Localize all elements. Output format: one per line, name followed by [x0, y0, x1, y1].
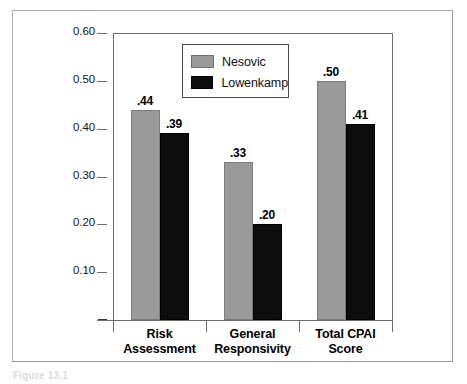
bar-nesovic[interactable] [131, 110, 160, 320]
bar-item[interactable]: .44 [131, 33, 160, 320]
category-label: RiskAssessment [113, 327, 206, 357]
plot-axis-right [392, 33, 393, 321]
legend-item-lowenkamp: Lowenkamp [191, 72, 288, 93]
category-label-line2: Assessment [113, 342, 206, 357]
bar-nesovic[interactable] [317, 81, 346, 320]
y-axis-tick-label: 0.50 [73, 73, 95, 85]
category-label-line2: Score [299, 342, 392, 357]
category-label-line1: Total CPAI [315, 327, 375, 341]
y-axis-tick-label: 0.60 [73, 25, 95, 37]
legend-swatch-nesovic [191, 55, 214, 68]
category-label-line1: Risk [146, 327, 172, 341]
y-axis-tick-mark [97, 272, 107, 273]
bar-group: .50.41 [317, 33, 375, 320]
legend-label-lowenkamp: Lowenkamp [221, 76, 288, 90]
category-separator-tick [206, 321, 207, 332]
category-separator-tick [392, 321, 393, 332]
bar-item[interactable]: .50 [317, 33, 346, 320]
category-label-line2: Responsivity [206, 342, 299, 357]
bar-value-label: .44 [137, 94, 153, 108]
y-axis-tick-mark [97, 129, 107, 130]
bar-lowenkamp[interactable] [346, 124, 375, 320]
legend-swatch-lowenkamp [191, 76, 213, 89]
y-axis-tick-mark [97, 224, 107, 225]
y-axis-tick-label: 0.40 [73, 121, 95, 133]
category-label: Total CPAIScore [299, 327, 392, 357]
category-separator-tick [299, 321, 300, 332]
bar-nesovic[interactable] [224, 162, 253, 320]
bar-group: .44.39 [131, 33, 189, 320]
chart-legend: Nesovic Lowenkamp [182, 44, 289, 98]
bar-value-label: .41 [352, 108, 368, 122]
legend-item-nesovic: Nesovic [191, 51, 288, 72]
category-label-line1: General [230, 327, 276, 341]
bar-item[interactable]: .41 [346, 33, 375, 320]
category-separator-tick [113, 321, 114, 332]
y-axis-tick-mark [97, 33, 107, 34]
bar-value-label: .39 [166, 117, 182, 131]
y-axis-tick-label: 0.10 [73, 264, 95, 276]
y-axis-tick-label: 0.20 [73, 216, 95, 228]
category-label: GeneralResponsivity [206, 327, 299, 357]
figure-caption: Figure 13.1 [13, 370, 193, 382]
figure-root: 0.600.500.400.300.200.10 .44.39.33.20.50… [0, 0, 467, 384]
bar-lowenkamp[interactable] [160, 133, 189, 320]
y-axis-tick-mark [97, 177, 107, 178]
y-axis-tick-label: 0.30 [73, 169, 95, 181]
bar-lowenkamp[interactable] [253, 224, 282, 320]
legend-label-nesovic: Nesovic [222, 55, 266, 69]
plot-axis-baseline [97, 320, 393, 321]
y-axis-zero-dash [98, 319, 107, 320]
bar-value-label: .20 [259, 208, 275, 222]
y-axis-tick-mark [97, 81, 107, 82]
bar-value-label: .33 [230, 146, 246, 160]
bar-value-label: .50 [323, 65, 339, 79]
